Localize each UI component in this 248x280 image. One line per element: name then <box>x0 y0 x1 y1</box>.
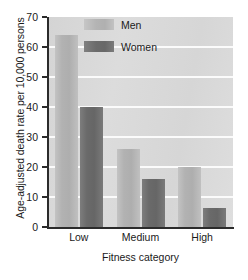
y-axis-tick-label: 50 <box>0 71 38 83</box>
bar-low-women <box>80 107 103 227</box>
bar-medium-women <box>142 179 165 227</box>
y-axis-tick <box>42 136 47 138</box>
bar-low-men <box>55 35 78 227</box>
y-axis-tick <box>42 16 47 18</box>
x-axis-tick-label-medium: Medium <box>122 231 159 243</box>
x-axis-line <box>47 227 234 229</box>
legend-swatch-men-icon <box>84 19 114 30</box>
y-axis-tick-label: 60 <box>0 41 38 53</box>
y-axis-tick-label: 30 <box>0 131 38 143</box>
y-axis-tick-label: 20 <box>0 161 38 173</box>
y-axis-tick-label: 70 <box>0 11 38 23</box>
bar-high-women <box>203 208 226 228</box>
y-axis-tick <box>42 196 47 198</box>
x-axis-tick-label-low: Low <box>69 231 88 243</box>
legend-item-men: Men <box>84 16 157 33</box>
y-axis-tick <box>42 106 47 108</box>
legend-item-women: Women <box>84 38 157 55</box>
bar-medium-men <box>117 149 140 227</box>
legend-label: Women <box>121 41 157 53</box>
x-axis-tick-label-high: High <box>191 231 213 243</box>
y-axis-tick <box>42 166 47 168</box>
y-axis-tick <box>42 226 47 228</box>
y-axis-tick <box>42 46 47 48</box>
chart-legend: MenWomen <box>84 16 157 60</box>
bar-chart-figure: Age-adjusted death rate per 10,000 perso… <box>0 0 248 280</box>
legend-swatch-women-icon <box>84 41 114 52</box>
y-axis-tick-label: 10 <box>0 191 38 203</box>
y-axis-tick-label: 0 <box>0 221 38 233</box>
x-axis-title: Fitness category <box>48 251 233 263</box>
y-axis-line <box>47 17 49 228</box>
legend-label: Men <box>121 19 141 31</box>
y-axis-tick-label: 40 <box>0 101 38 113</box>
bar-high-men <box>178 167 201 227</box>
y-axis-tick <box>42 76 47 78</box>
